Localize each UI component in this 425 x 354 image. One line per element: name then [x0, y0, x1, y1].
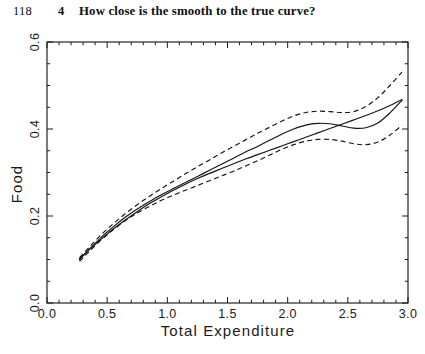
x-tick-label: 3.0 — [399, 307, 417, 321]
x-tick-label: 1.0 — [158, 307, 176, 321]
plot-frame — [47, 42, 408, 303]
chart-figure: 0.00.51.01.52.02.53.0 0.00.20.40.6 Total… — [0, 24, 425, 354]
curve-true-curve — [79, 99, 401, 259]
chart-curves — [79, 72, 401, 261]
curve-smooth-estimate — [79, 100, 401, 259]
chart-svg: 0.00.51.01.52.02.53.0 0.00.20.40.6 Total… — [0, 24, 425, 354]
running-head-title: How close is the smooth to the true curv… — [79, 4, 316, 19]
y-axis-label: Food — [8, 165, 25, 204]
x-tick-label: 0.5 — [98, 307, 116, 321]
y-tick-labels: 0.00.20.40.6 — [28, 33, 42, 312]
x-tick-label: 1.5 — [218, 307, 236, 321]
x-tick-labels: 0.00.51.01.52.02.53.0 — [38, 307, 417, 321]
page-number: 118 — [13, 4, 32, 19]
x-axis-label: Total Expenditure — [161, 322, 296, 339]
running-head: 118 4 How close is the smooth to the tru… — [0, 4, 425, 22]
y-tick-label: 0.4 — [28, 120, 42, 138]
curve-upper-confidence-band — [79, 72, 401, 258]
y-tick-label: 0.2 — [28, 207, 42, 225]
figure-page: 118 4 How close is the smooth to the tru… — [0, 0, 425, 354]
y-tick-label: 0.0 — [28, 294, 42, 312]
y-tick-label: 0.6 — [28, 33, 42, 51]
curve-lower-confidence-band — [79, 125, 401, 261]
chapter-number: 4 — [58, 4, 64, 19]
axis-ticks — [47, 42, 408, 303]
x-tick-label: 2.5 — [339, 307, 357, 321]
x-tick-label: 2.0 — [279, 307, 297, 321]
